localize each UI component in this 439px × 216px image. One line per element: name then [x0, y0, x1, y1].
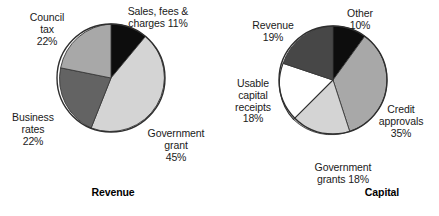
revenue-label-council-tax: Council tax 22% — [16, 12, 78, 47]
revenue-label-sales-fees-charges: Sales, fees & charges 11% — [103, 6, 213, 30]
capital-label-credit-approvals: Credit approvals 35% — [363, 104, 439, 139]
capital-label-revenue: Revenue 19% — [240, 20, 306, 44]
capital-chart-title: Capital — [337, 186, 427, 198]
pie-charts-figure: Council tax 22% Sales, fees & charges 11… — [0, 0, 439, 216]
capital-label-usable-capital-receipts: Usable capital receipts 18% — [223, 78, 283, 125]
revenue-chart-title: Revenue — [58, 186, 168, 198]
revenue-label-government-grant: Government grant 45% — [133, 128, 219, 163]
revenue-label-business-rates: Business rates 22% — [2, 112, 64, 147]
revenue-chart-panel: Council tax 22% Sales, fees & charges 11… — [0, 0, 220, 216]
capital-label-government-grants: Government grants 18% — [295, 162, 391, 186]
capital-label-other: Other 10% — [330, 8, 390, 32]
